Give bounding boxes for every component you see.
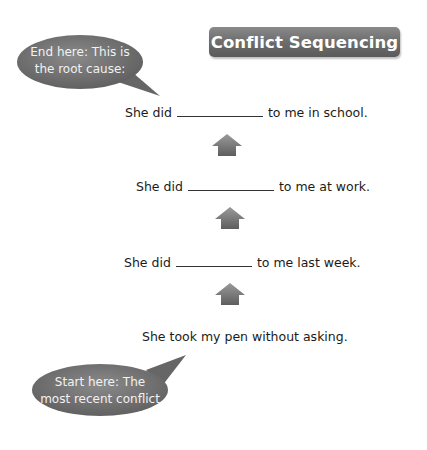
- start-event-text: She took my pen without asking.: [142, 329, 348, 344]
- up-arrow-icon: [211, 133, 243, 157]
- end-bubble-line1: End here: This is: [26, 44, 134, 61]
- step-prefix: She did: [125, 105, 172, 120]
- step-suffix: to me last week.: [257, 255, 361, 270]
- step-prefix: She did: [136, 179, 183, 194]
- end-bubble-line2: the root cause:: [26, 61, 134, 78]
- start-event-label: She took my pen without asking.: [142, 329, 348, 344]
- page-title: Conflict Sequencing: [211, 33, 399, 52]
- step-line-work: She did to me at work.: [136, 178, 370, 194]
- start-bubble-line1: Start here: The: [40, 374, 160, 391]
- up-arrow-icon: [214, 282, 246, 306]
- step-line-last-week: She did to me last week.: [124, 254, 361, 270]
- title-banner: Conflict Sequencing: [209, 27, 400, 57]
- step-suffix: to me in school.: [268, 105, 368, 120]
- step-prefix: She did: [124, 255, 171, 270]
- answer-blank[interactable]: [188, 178, 274, 191]
- answer-blank[interactable]: [176, 254, 252, 267]
- step-suffix: to me at work.: [279, 179, 370, 194]
- start-bubble-line2: most recent conflict: [40, 391, 160, 408]
- start-bubble-text: Start here: The most recent conflict: [40, 374, 160, 408]
- answer-blank[interactable]: [177, 104, 263, 117]
- up-arrow-icon: [214, 206, 246, 230]
- step-line-school: She did to me in school.: [125, 104, 368, 120]
- end-bubble-text: End here: This is the root cause:: [26, 44, 134, 78]
